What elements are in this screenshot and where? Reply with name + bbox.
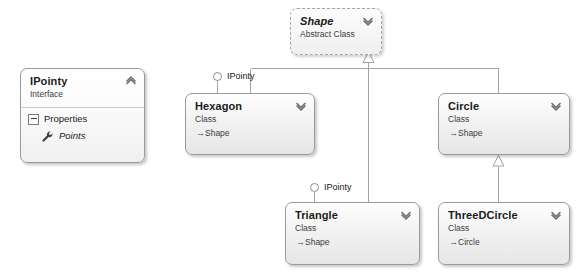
node-shape-stereotype: Abstract Class (300, 28, 373, 40)
interface-lollipop-icon (213, 72, 222, 81)
lollipop-hexagon-ipointy[interactable]: IPointy (213, 71, 255, 81)
properties-group-label: Properties (44, 112, 87, 126)
properties-group-row[interactable]: Properties (28, 112, 138, 126)
wrench-icon (41, 130, 54, 143)
chevron-down-icon[interactable] (550, 100, 562, 112)
node-hexagon-base: →Shape (195, 125, 306, 139)
node-circle[interactable]: Circle Class →Shape (438, 93, 570, 155)
class-diagram-canvas: Shape Abstract Class IPointy Interface (0, 0, 584, 277)
node-triangle-header: Triangle Class →Shape (286, 203, 419, 250)
chevron-up-icon[interactable] (125, 75, 137, 87)
node-triangle-base-label: Shape (305, 237, 330, 247)
node-threedcircle-title: ThreeDCircle (448, 209, 561, 222)
interface-lollipop-icon (310, 183, 319, 192)
property-item-points[interactable]: Points (28, 129, 138, 143)
ipointy-properties-compartment: Properties Points (21, 108, 144, 149)
lollipop-label: IPointy (227, 71, 255, 81)
node-hexagon-header: Hexagon Class →Shape (186, 94, 314, 141)
node-ipointy[interactable]: IPointy Interface Properties Points (20, 68, 145, 163)
node-threedcircle-base-label: Circle (458, 237, 480, 247)
node-ipointy-title: IPointy (30, 75, 136, 88)
node-ipointy-header: IPointy Interface (21, 69, 144, 102)
node-circle-title: Circle (448, 100, 561, 113)
base-arrow-icon: → (449, 236, 458, 248)
node-hexagon-base-label: Shape (205, 128, 230, 138)
property-item-label: Points (59, 129, 85, 143)
node-triangle-stereotype: Class (295, 222, 411, 234)
chevron-down-icon[interactable] (295, 100, 307, 112)
node-hexagon-title: Hexagon (195, 100, 306, 113)
base-arrow-icon: → (196, 127, 205, 139)
inheritance-arrowhead-circle (493, 156, 504, 167)
node-hexagon-stereotype: Class (195, 113, 306, 125)
node-hexagon[interactable]: Hexagon Class →Shape (185, 93, 315, 155)
node-ipointy-stereotype: Interface (30, 88, 136, 100)
node-threedcircle[interactable]: ThreeDCircle Class →Circle (438, 202, 570, 265)
node-circle-stereotype: Class (448, 113, 561, 125)
collapse-box-icon[interactable] (28, 114, 39, 125)
chevron-down-icon[interactable] (550, 209, 562, 221)
node-triangle-base: →Shape (295, 234, 411, 248)
lollipop-triangle-ipointy[interactable]: IPointy (310, 182, 352, 192)
node-shape[interactable]: Shape Abstract Class (290, 8, 382, 55)
node-triangle-title: Triangle (295, 209, 411, 222)
node-threedcircle-base: →Circle (448, 234, 561, 248)
base-arrow-icon: → (449, 127, 458, 139)
node-threedcircle-stereotype: Class (448, 222, 561, 234)
node-circle-header: Circle Class →Shape (439, 94, 569, 141)
chevron-down-icon[interactable] (400, 209, 412, 221)
node-threedcircle-header: ThreeDCircle Class →Circle (439, 203, 569, 250)
base-arrow-icon: → (296, 236, 305, 248)
node-shape-header: Shape Abstract Class (291, 9, 381, 42)
node-circle-base-label: Shape (458, 128, 483, 138)
lollipop-label: IPointy (324, 182, 352, 192)
chevron-down-icon[interactable] (362, 15, 374, 27)
node-triangle[interactable]: Triangle Class →Shape (285, 202, 420, 265)
node-circle-base: →Shape (448, 125, 561, 139)
